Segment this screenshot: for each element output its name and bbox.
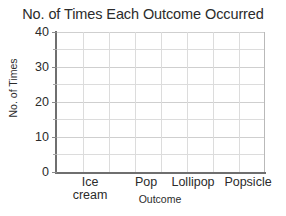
gridline-x-1 [83,32,84,173]
gridline-x-2 [109,32,110,173]
x-tick-label-pop-line1: Pop [135,175,157,189]
y-tick-10 [52,137,57,138]
x-tick-label-lollipop: Lollipop [164,176,222,189]
y-tick-label-10: 10 [25,130,49,144]
gridline-x-6 [213,32,214,173]
y-tick-5 [53,154,57,155]
y-axis-title: No. of Times [7,53,19,123]
y-tick-label-30: 30 [25,60,49,74]
gridline-x-7 [239,32,240,173]
y-tick-15 [53,119,57,120]
y-tick-25 [53,84,57,85]
y-tick-20 [52,102,57,103]
chart-container: No. of Times Each Outcome Occurred 40 30… [0,0,286,216]
x-tick-label-popsicle: Popsicle [219,176,277,189]
gridline-x-5 [187,32,188,173]
gridline-x-right-edge [264,32,265,173]
gridline-x-3 [135,32,136,173]
chart-title: No. of Times Each Outcome Occurred [0,6,286,22]
x-tick-label-ice-cream-line1: Ice [82,175,99,189]
y-tick-0 [52,172,57,173]
plot-area [57,32,265,173]
x-tick-label-pop: Pop [126,176,166,189]
y-tick-30 [52,67,57,68]
x-tick-label-popsicle-line1: Popsicle [224,175,271,189]
y-tick-label-40: 40 [25,25,49,39]
y-tick-label-0: 0 [25,165,49,179]
y-tick-40 [52,32,57,33]
y-tick-label-20: 20 [25,95,49,109]
x-axis-line [55,172,266,174]
x-axis-title: Outcome [110,193,210,205]
x-tick-label-lollipop-line1: Lollipop [171,175,214,189]
gridline-x-4 [161,32,162,173]
y-tick-35 [53,49,57,50]
